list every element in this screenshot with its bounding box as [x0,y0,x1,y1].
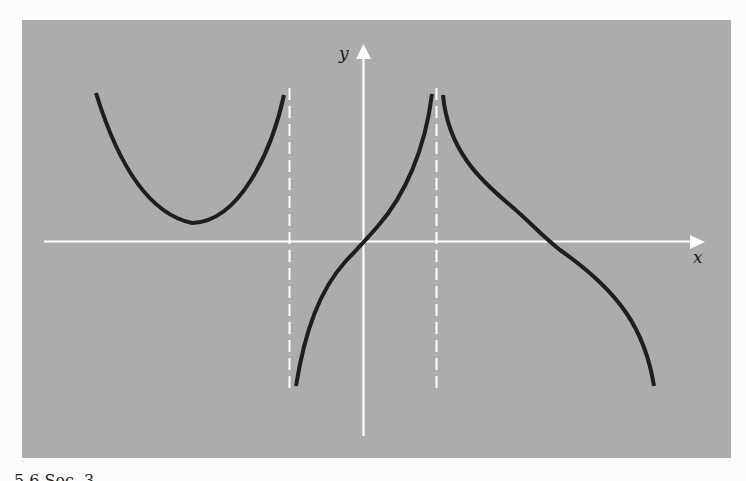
y-axis-label: y [339,45,349,62]
figure: y x 5.6 Sec. 3 [0,0,746,481]
figure-caption: 5.6 Sec. 3 [14,473,94,481]
y-axis-arrow-icon [356,44,371,59]
x-axis-label: x [693,249,703,266]
function-graph [0,0,746,481]
left-branch-curve [96,93,284,223]
